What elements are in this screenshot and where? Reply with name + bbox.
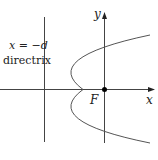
directrix-equation: x = −d	[9, 40, 48, 51]
y-axis-label: y	[94, 8, 101, 20]
diagram-canvas	[0, 0, 158, 160]
focus-label: F	[90, 94, 98, 106]
parabola-diagram: y x F x = −d directrix	[0, 0, 158, 160]
x-axis-arrow-icon	[148, 87, 155, 92]
x-axis-label: x	[146, 94, 153, 106]
directrix-label: directrix	[3, 55, 51, 66]
focus-point	[102, 87, 107, 92]
y-axis-arrow-icon	[102, 12, 107, 19]
